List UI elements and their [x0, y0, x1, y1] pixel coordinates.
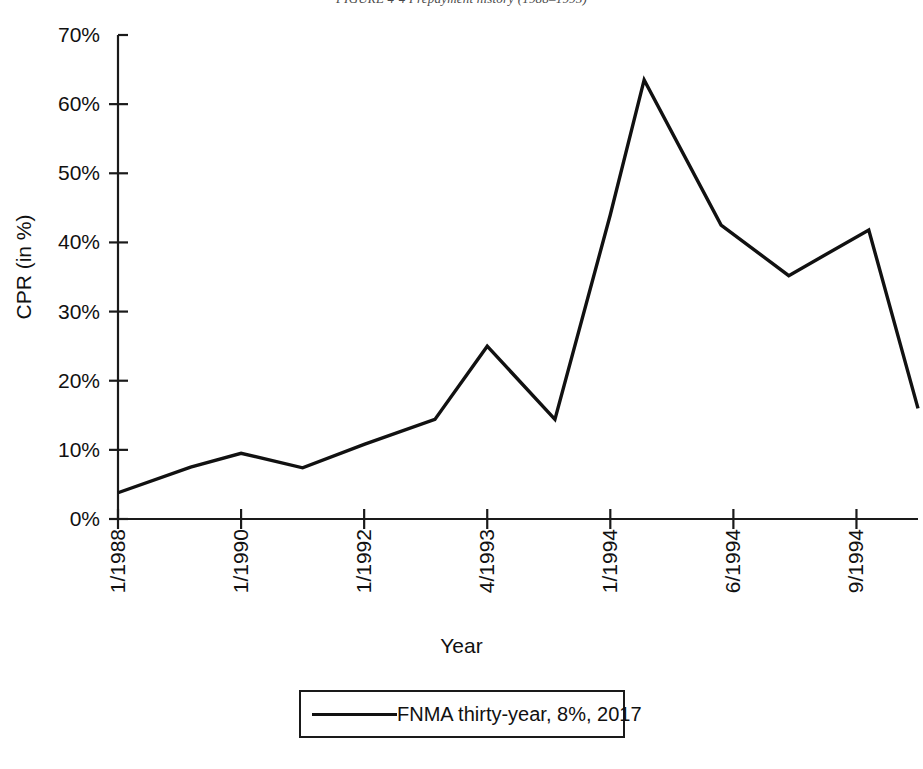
x-tick-label: 1/1990: [229, 529, 252, 593]
x-tick-label: 4/1993: [475, 529, 498, 593]
x-tick-label: 9/1994: [844, 529, 867, 594]
x-tick-label: 1/1994: [598, 529, 621, 594]
y-tick-label: 20%: [58, 369, 100, 392]
legend-item: FNMA thirty-year, 8%, 2017: [301, 692, 623, 736]
line-chart: 0%10%20%30%40%50%60%70% 1/19881/19901/19…: [0, 0, 923, 630]
legend-item-label: FNMA thirty-year, 8%, 2017: [397, 703, 642, 726]
y-tick-label: 0%: [70, 507, 100, 530]
data-series-line: [118, 80, 918, 493]
x-axis-title: Year: [0, 634, 923, 658]
x-axis-group: [118, 509, 918, 529]
y-tick-label: 70%: [58, 23, 100, 46]
legend: FNMA thirty-year, 8%, 2017: [299, 690, 625, 738]
y-tick-label: 50%: [58, 161, 100, 184]
x-tick-label: 1/1992: [352, 529, 375, 593]
y-axis-group: 0%10%20%30%40%50%60%70%: [58, 23, 128, 530]
figure-container: FIGURE 4-4 Prepayment history (1988–1995…: [0, 0, 923, 769]
y-tick-label: 10%: [58, 438, 100, 461]
y-tick-label: 40%: [58, 230, 100, 253]
y-tick-label: 30%: [58, 300, 100, 323]
x-tick-label-group: 1/19881/19901/19924/19931/19946/19949/19…: [106, 529, 867, 594]
y-tick-label: 60%: [58, 92, 100, 115]
legend-line-swatch: [312, 713, 397, 716]
x-tick-label: 1/1988: [106, 529, 129, 593]
x-tick-label: 6/1994: [721, 529, 744, 594]
